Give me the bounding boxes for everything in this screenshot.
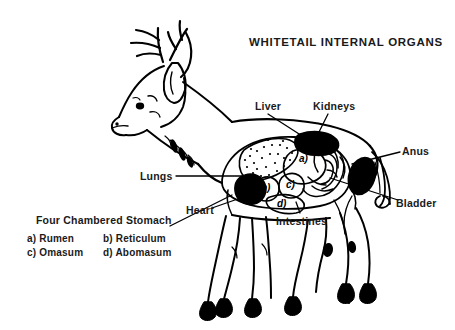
- stomach-legend-title: Four Chambered Stomach: [36, 214, 179, 226]
- deer-neck: [147, 82, 232, 169]
- chamber-marker-b: b): [261, 182, 270, 193]
- stomach-legend-item-d: d) Abomasum: [103, 247, 179, 259]
- label-intestines: Intestines: [276, 215, 327, 227]
- stomach-legend-item-b: b) Reticulum: [103, 233, 179, 245]
- chamber-marker-c: c): [286, 179, 295, 190]
- deer-anatomy-illustration: [0, 0, 455, 330]
- label-bladder: Bladder: [396, 197, 437, 209]
- page-title: WHITETAIL INTERNAL ORGANS: [249, 36, 443, 49]
- stomach-legend-item-a: a) Rumen: [27, 233, 103, 245]
- label-lungs: Lungs: [140, 170, 173, 182]
- deer-head: [112, 63, 186, 135]
- chamber-marker-d: d): [277, 198, 286, 209]
- stomach-legend-row: c) Omasum d) Abomasum: [27, 247, 179, 259]
- stomach-legend-item-c: c) Omasum: [27, 247, 103, 259]
- chamber-marker-a: a): [299, 153, 308, 164]
- label-kidneys: Kidneys: [313, 100, 355, 112]
- whitetail-organ-diagram: WHITETAIL INTERNAL ORGANS Liver Kidneys …: [0, 0, 455, 330]
- label-liver: Liver: [255, 100, 281, 112]
- stomach-legend-row: a) Rumen b) Reticulum: [27, 233, 179, 245]
- bladder-organ: [344, 154, 380, 198]
- leader-intestines: [296, 202, 300, 213]
- label-heart: Heart: [186, 204, 214, 216]
- leg-markings: [322, 240, 357, 257]
- label-anus: Anus: [402, 145, 429, 157]
- stomach-legend: Four Chambered Stomach a) Rumen b) Retic…: [27, 214, 179, 260]
